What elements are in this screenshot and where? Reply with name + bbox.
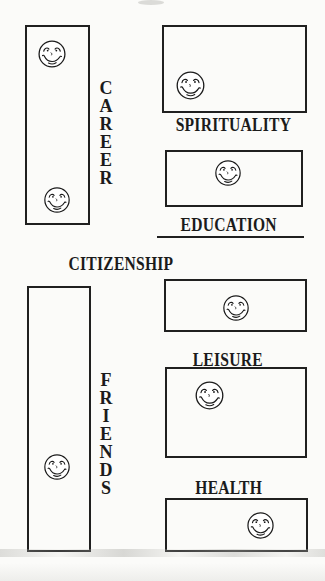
smiley-face-icon (192, 378, 227, 413)
smiley-face-icon (212, 157, 244, 189)
spirituality-label: SPIRITUALITY (160, 115, 307, 134)
smiley-face-icon (41, 184, 73, 216)
leisure-bottom-box (165, 367, 307, 458)
citizenship-label: CITIZENSHIP (56, 254, 186, 273)
friends-label: FRIENDS (97, 370, 115, 496)
scan-artifact (0, 563, 325, 581)
friends-box (27, 286, 91, 552)
smiley-face-icon (173, 68, 208, 103)
education-underline (157, 236, 304, 238)
health-box (165, 498, 308, 552)
smiley-face-icon (41, 451, 73, 483)
career-label: CAREER (97, 78, 115, 186)
scan-artifact (138, 0, 164, 5)
health-label: HEALTH (164, 478, 294, 497)
scan-artifact (0, 549, 325, 557)
life-areas-diagram: CAREER SPIRITUALITY EDUCATION CITIZENSHI… (0, 0, 325, 581)
education-label: EDUCATION (164, 215, 294, 234)
smiley-face-icon (35, 37, 69, 71)
smiley-face-icon (220, 292, 252, 324)
smiley-face-icon (244, 509, 277, 542)
